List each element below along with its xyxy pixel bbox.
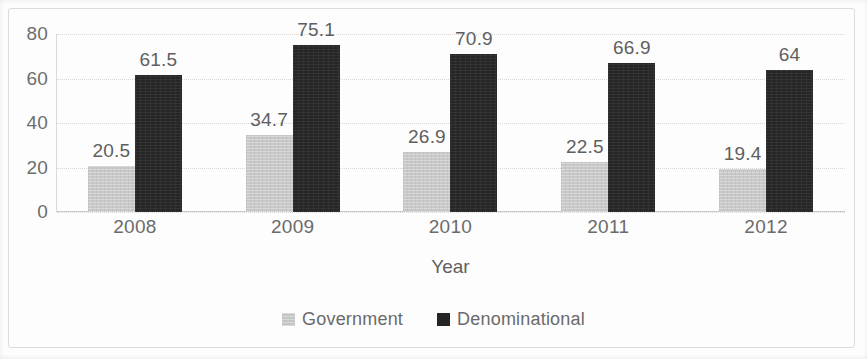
bar-denominational-2009[interactable]: 75.1	[293, 45, 340, 212]
bar-value-label: 22.5	[566, 136, 604, 158]
bar-denominational-2012[interactable]: 64	[766, 70, 813, 212]
bar-government-2008[interactable]: 20.5	[88, 166, 135, 212]
bar-value-label: 70.9	[455, 28, 493, 50]
x-axis-tick-label-2008: 2008	[56, 216, 214, 250]
bar-value-label: 64	[779, 44, 801, 66]
x-axis-title: Year	[56, 256, 845, 278]
x-axis-tick-label-2009: 2009	[214, 216, 372, 250]
bar-denominational-2008[interactable]: 61.5	[135, 75, 182, 212]
bar-value-label: 61.5	[140, 49, 178, 71]
bar-denominational-2010[interactable]: 70.9	[450, 54, 497, 212]
legend-label: Denominational	[457, 309, 585, 330]
x-axis-tick-label-2011: 2011	[529, 216, 687, 250]
y-axis-tick-label: 60	[6, 68, 48, 90]
bar-chart-figure: 806040200 20.561.534.775.126.970.922.566…	[0, 0, 867, 359]
bar-pair: 26.970.9	[372, 34, 530, 212]
legend-swatch-icon-denominational	[437, 313, 450, 326]
bar-pair: 20.561.5	[56, 34, 214, 212]
legend-item-government[interactable]: Government	[282, 309, 403, 330]
legend-swatch-icon-government	[282, 313, 295, 326]
bar-groups: 20.561.534.775.126.970.922.566.919.464	[56, 34, 845, 212]
bar-government-2011[interactable]: 22.5	[561, 162, 608, 212]
bar-pair: 34.775.1	[214, 34, 372, 212]
x-axis-tick-label-2012: 2012	[687, 216, 845, 250]
bar-pair: 22.566.9	[529, 34, 687, 212]
y-axis-tick-label: 20	[6, 157, 48, 179]
bar-value-label: 26.9	[408, 126, 446, 148]
bar-group: 22.566.9	[529, 34, 687, 212]
bar-government-2012[interactable]: 19.4	[719, 169, 766, 212]
x-axis-tick-label-2010: 2010	[372, 216, 530, 250]
chart-legend: GovernmentDenominational	[0, 309, 867, 330]
x-axis-tick-labels: 20082009201020112012	[56, 216, 845, 250]
y-axis-tick-label: 0	[6, 201, 48, 223]
y-axis-tick-label: 40	[6, 112, 48, 134]
bar-group: 26.970.9	[372, 34, 530, 212]
bar-value-label: 20.5	[93, 140, 131, 162]
bar-value-label: 66.9	[613, 37, 651, 59]
gridline	[57, 212, 845, 213]
bar-group: 19.464	[687, 34, 845, 212]
bar-group: 34.775.1	[214, 34, 372, 212]
y-axis-tick-labels: 806040200	[0, 34, 48, 212]
bar-denominational-2011[interactable]: 66.9	[608, 63, 655, 212]
bar-government-2010[interactable]: 26.9	[403, 152, 450, 212]
bar-value-label: 34.7	[250, 109, 288, 131]
bar-pair: 19.464	[687, 34, 845, 212]
bar-group: 20.561.5	[56, 34, 214, 212]
bar-value-label: 19.4	[724, 143, 762, 165]
legend-label: Government	[302, 309, 403, 330]
y-axis-tick-label: 80	[6, 23, 48, 45]
bar-government-2009[interactable]: 34.7	[246, 135, 293, 212]
legend-item-denominational[interactable]: Denominational	[437, 309, 585, 330]
bar-value-label: 75.1	[297, 19, 335, 41]
